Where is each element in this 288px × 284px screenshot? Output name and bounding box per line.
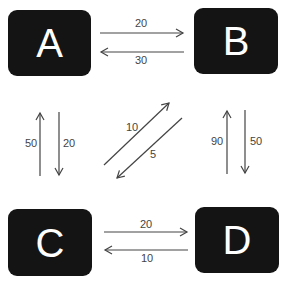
node-b: B xyxy=(194,8,278,74)
node-d-label: D xyxy=(223,220,252,260)
node-a: A xyxy=(8,10,91,76)
node-c-label: C xyxy=(36,223,65,263)
edge-label-c-to-b: 10 xyxy=(126,122,138,133)
node-d: D xyxy=(195,207,279,273)
edge-label-b-to-c: 5 xyxy=(150,149,156,160)
node-b-label: B xyxy=(223,21,250,61)
edge-label-b-to-d: 50 xyxy=(250,136,262,147)
edge-label-d-to-b: 90 xyxy=(211,136,223,147)
edge-label-a-to-c: 20 xyxy=(63,138,75,149)
edge-label-c-to-d: 20 xyxy=(140,219,152,230)
edge-label-a-to-b: 20 xyxy=(135,18,147,29)
edge-label-d-to-c: 10 xyxy=(141,253,153,264)
edge-label-c-to-a: 50 xyxy=(25,138,37,149)
node-c: C xyxy=(8,209,92,276)
edge-c-to-b xyxy=(104,103,169,165)
node-a-label: A xyxy=(36,23,63,63)
edge-label-b-to-a: 30 xyxy=(135,55,147,66)
